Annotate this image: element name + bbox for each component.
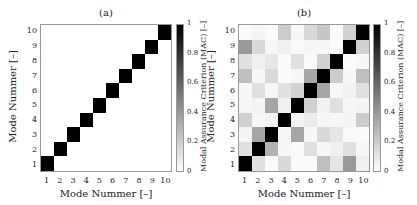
x-tick-label: 1: [40, 176, 54, 185]
heatmap-cell: [317, 69, 330, 84]
heatmap-cell: [80, 69, 93, 84]
heatmap-cell: [317, 156, 330, 171]
heatmap-cell: [93, 156, 106, 171]
heatmap-cell: [41, 156, 54, 171]
y-tick-label: 6: [221, 86, 235, 95]
heatmap-cell: [278, 142, 291, 157]
heatmap-cell: [356, 40, 369, 55]
heatmap-cell: [106, 142, 119, 157]
heatmap-cell: [278, 54, 291, 69]
heatmap-cell: [145, 156, 158, 171]
heatmap-cell: [67, 83, 80, 98]
x-tick-label: 3: [66, 176, 80, 185]
heatmap-cell: [252, 113, 265, 128]
heatmap-cell: [67, 69, 80, 84]
x-axis-label: Mode Nummer [–]: [40, 188, 172, 199]
heatmap-cell: [265, 83, 278, 98]
heatmap-cell: [252, 25, 265, 40]
heatmap-cell: [54, 142, 67, 157]
heatmap-cell: [67, 142, 80, 157]
heatmap-cell: [119, 98, 132, 113]
heatmap-cell: [54, 127, 67, 142]
colorbar-tick-label: 0: [187, 167, 191, 175]
heatmap-cell: [291, 83, 304, 98]
heatmap-cell: [41, 40, 54, 55]
heatmap-cell: [317, 142, 330, 157]
x-tick-label: 9: [145, 176, 159, 185]
heatmap-cell: [106, 40, 119, 55]
heatmap-cell: [265, 98, 278, 113]
y-tick-label: 10: [23, 26, 37, 35]
heatmap-cell: [41, 98, 54, 113]
y-tick-label: 5: [221, 100, 235, 109]
heatmap-cell: [132, 69, 145, 84]
heatmap-cell: [356, 98, 369, 113]
heatmap-cell: [356, 142, 369, 157]
heatmap-cell: [330, 98, 343, 113]
heatmap-cell: [317, 98, 330, 113]
heatmap-cell: [265, 156, 278, 171]
heatmap-cell: [41, 142, 54, 157]
colorbar-tick-label: 0.6: [187, 78, 198, 86]
heatmap-cell: [265, 54, 278, 69]
x-tick-label: 5: [290, 176, 304, 185]
heatmap-cell: [158, 69, 171, 84]
colorbar-tick-label: 0: [384, 167, 388, 175]
heatmap-cell: [93, 98, 106, 113]
heatmap-cell: [330, 25, 343, 40]
x-tick-label: 6: [304, 176, 318, 185]
heatmap-cell: [239, 142, 252, 157]
heatmap-cell: [252, 127, 265, 142]
panel-a: (a) 12345678910 12345678910 Mode Nummer …: [0, 0, 208, 205]
colorbar-tick-label: 0.4: [384, 108, 395, 116]
heatmap-cell: [158, 25, 171, 40]
heatmap-cell: [317, 113, 330, 128]
heatmap-cell: [343, 25, 356, 40]
heatmap-cell: [106, 113, 119, 128]
heatmap-cell: [132, 98, 145, 113]
heatmap-cell: [291, 142, 304, 157]
heatmap-cell: [106, 83, 119, 98]
y-tick-label: 9: [23, 41, 37, 50]
y-tick-label: 1: [23, 160, 37, 169]
heatmap-cell: [158, 40, 171, 55]
heatmap-cell: [41, 113, 54, 128]
heatmap-cell: [132, 127, 145, 142]
heatmap-cell: [278, 40, 291, 55]
heatmap-cell: [291, 127, 304, 142]
x-tick-label: 10: [356, 176, 370, 185]
heatmap-cell: [93, 69, 106, 84]
heatmap-cell: [239, 25, 252, 40]
heatmap-cell: [93, 83, 106, 98]
heatmap-cell: [54, 98, 67, 113]
heatmap-cell: [80, 54, 93, 69]
heatmap-cell: [80, 142, 93, 157]
heatmap-cell: [80, 156, 93, 171]
y-tick-label: 8: [23, 56, 37, 65]
heatmap-cell: [41, 83, 54, 98]
heatmap-cell: [252, 83, 265, 98]
colorbar-tick-label: 0.6: [384, 78, 395, 86]
x-tick-label: 4: [277, 176, 291, 185]
heatmap-cell: [330, 127, 343, 142]
heatmap-cell: [343, 142, 356, 157]
heatmap-cell: [106, 25, 119, 40]
heatmap-cell: [67, 40, 80, 55]
heatmap-cell: [158, 127, 171, 142]
colorbar-tick-label: 1: [187, 19, 191, 27]
colorbar: [373, 24, 381, 172]
heatmap-cell: [291, 54, 304, 69]
heatmap-cell: [54, 54, 67, 69]
heatmap-cell: [119, 156, 132, 171]
x-tick-label: 7: [119, 176, 133, 185]
y-tick-label: 6: [23, 86, 37, 95]
heatmap-cell: [119, 127, 132, 142]
heatmap-cell: [67, 127, 80, 142]
y-axis-label: Mode Nummer [–]: [205, 23, 216, 171]
heatmap-cell: [80, 98, 93, 113]
heatmap-cell: [317, 40, 330, 55]
heatmap-cell: [106, 127, 119, 142]
heatmap-cell: [356, 127, 369, 142]
heatmap-cell: [119, 54, 132, 69]
heatmap-cell: [330, 40, 343, 55]
